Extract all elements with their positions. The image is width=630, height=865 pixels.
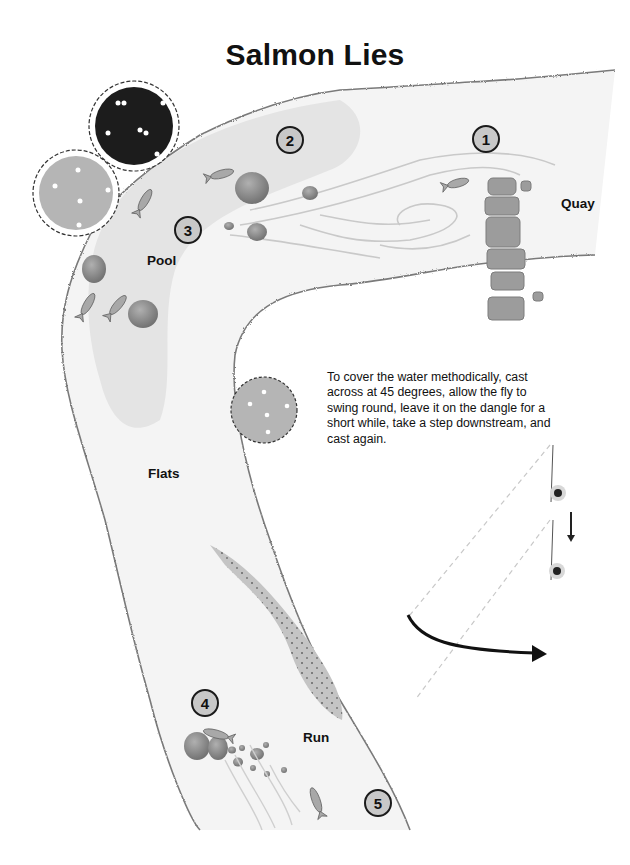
casting-diagram xyxy=(408,445,575,700)
swing-arrow xyxy=(408,615,535,653)
page-title: Salmon Lies xyxy=(0,38,630,72)
tree-light xyxy=(33,150,119,236)
lie-badge-4: 4 xyxy=(191,689,219,717)
casting-instructions: To cover the water methodically, cast ac… xyxy=(327,370,557,447)
label-quay: Quay xyxy=(561,196,595,211)
lie-badge-2: 2 xyxy=(276,126,304,154)
tree-middle xyxy=(231,377,297,443)
lie-badge-5: 5 xyxy=(364,789,392,817)
label-pool: Pool xyxy=(147,253,176,268)
lie-badge-1: 1 xyxy=(472,125,500,153)
label-run: Run xyxy=(303,730,329,745)
label-flats: Flats xyxy=(148,466,180,481)
tree-dark xyxy=(89,81,179,171)
salmon-lies-diagram: Salmon Lies 1 2 3 4 5 Quay Pool Flats Ru… xyxy=(0,0,630,865)
lie-badge-3: 3 xyxy=(174,216,202,244)
